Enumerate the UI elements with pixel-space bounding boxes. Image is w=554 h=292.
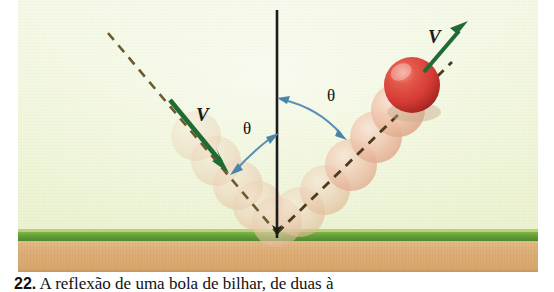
velocity-arrow-layer <box>0 0 554 292</box>
figure-root: V V θ θ 22. A reflexão de uma bola de bi… <box>0 0 554 292</box>
figure-caption: 22. A reflexão de uma bola de bilhar, de… <box>14 274 554 292</box>
incoming-velocity-label: V <box>196 104 209 126</box>
outgoing-velocity-label: V <box>428 26 441 48</box>
caption-text: A reflexão de uma bola de bilhar, de dua… <box>40 274 334 292</box>
theta-right-label: θ <box>327 86 335 106</box>
caption-number: 22. <box>14 275 36 292</box>
theta-left-label: θ <box>243 119 251 139</box>
